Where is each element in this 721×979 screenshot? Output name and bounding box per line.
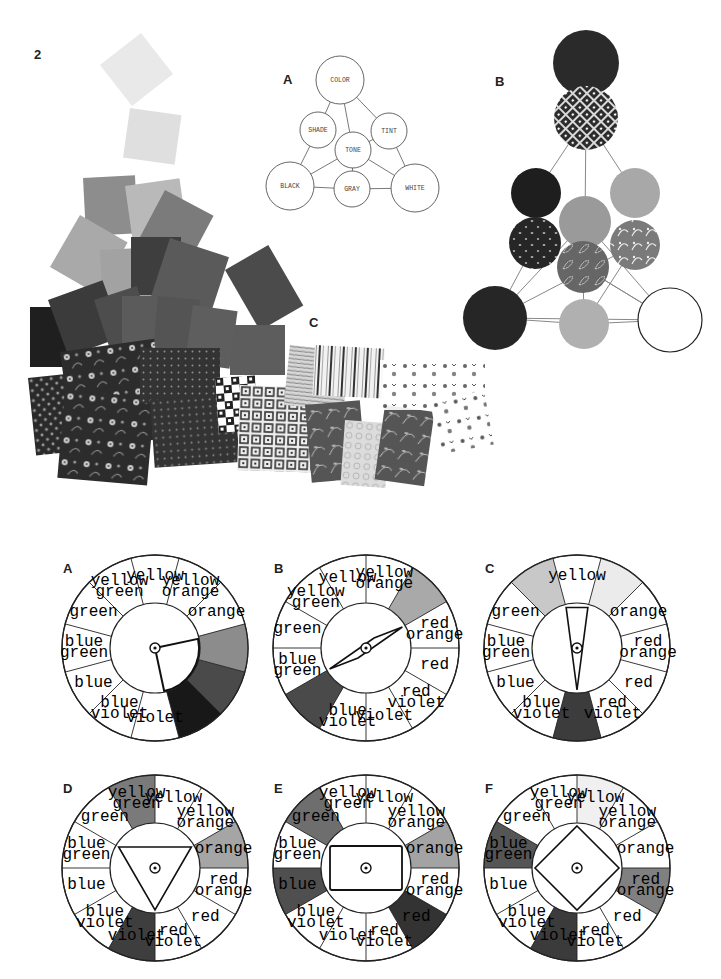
- segment-label: yellowgreen: [319, 784, 377, 813]
- segment-label: yelloworange: [356, 564, 414, 593]
- segment-label: yelloworange: [176, 803, 234, 832]
- segment-label: yellowgreen: [108, 784, 166, 813]
- segment-label: bluegreen: [60, 633, 108, 662]
- segment-label: orange: [617, 840, 675, 858]
- color-wheel-d: yellowyelloworangeorangeredorangeredredv…: [62, 775, 252, 961]
- color-wheel-c: yelloworangeredorangeredredvioletbluevio…: [482, 555, 677, 741]
- segment-label: bluegreen: [62, 835, 110, 864]
- segment-label: blue: [67, 876, 105, 894]
- color-wheel-grid: yellowyelloworangeorangevioletblueviolet…: [0, 0, 721, 979]
- segment-label: yelloworange: [162, 572, 220, 601]
- wheel-label: C: [485, 561, 495, 576]
- segment-label: blue: [489, 876, 527, 894]
- segment-label: green: [492, 603, 540, 621]
- segment-label: bluegreen: [273, 835, 321, 864]
- segment-label: yellow: [548, 567, 606, 585]
- wheel-label: E: [274, 781, 283, 796]
- wheel-label: D: [63, 781, 72, 796]
- segment-label: red: [624, 674, 653, 692]
- segment-label: orange: [610, 603, 668, 621]
- segment-label: orange: [188, 603, 246, 621]
- segment-label: green: [273, 620, 321, 638]
- segment-label: bluegreen: [484, 835, 532, 864]
- segment-label: blue: [74, 674, 112, 692]
- segment-label: red: [420, 656, 449, 674]
- color-wheel-e: yellowyelloworangeorangeredorangeredredv…: [273, 775, 463, 961]
- wheel-label: F: [485, 781, 493, 796]
- segment-label: red: [402, 908, 431, 926]
- segment-label: orange: [195, 840, 253, 858]
- wheel-label: A: [63, 561, 73, 576]
- segment-label: orange: [406, 840, 464, 858]
- segment-label: yelloworange: [598, 803, 656, 832]
- segment-label: yellowgreen: [287, 583, 345, 612]
- color-wheel-f: yellowyelloworangeorangeredorangeredredv…: [484, 775, 674, 961]
- segment-label: yelloworange: [387, 803, 445, 832]
- segment-label: red: [613, 908, 642, 926]
- segment-label: bluegreen: [273, 651, 321, 680]
- segment-label: yellowgreen: [530, 784, 588, 813]
- color-wheel-a: yellowyelloworangeorangevioletblueviolet…: [60, 555, 248, 741]
- segment-label: blue: [278, 876, 316, 894]
- segment-label: bluegreen: [482, 633, 530, 662]
- segment-label: blue: [496, 674, 534, 692]
- segment-label: green: [70, 603, 118, 621]
- color-wheel-b: yellowyelloworangeredorangeredredvioletv…: [273, 555, 463, 741]
- segment-label: yellowgreen: [91, 572, 149, 601]
- wheel-label: B: [274, 561, 283, 576]
- segment-label: red: [191, 908, 220, 926]
